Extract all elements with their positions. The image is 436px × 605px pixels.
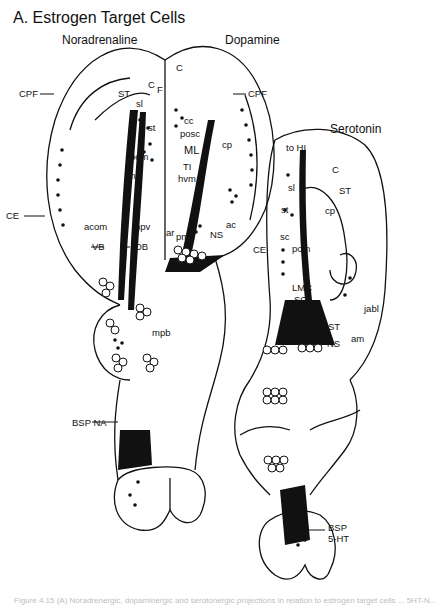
label-5ht-so: SO bbox=[294, 295, 308, 305]
label-na-ce: CE bbox=[6, 211, 19, 221]
label-da-hvm: hvm bbox=[178, 174, 196, 184]
label-5ht-5ht: 5-HT bbox=[328, 534, 349, 544]
label-na-hpv: hpv bbox=[135, 222, 150, 232]
label-5ht-bsp: BSP bbox=[328, 523, 347, 533]
header-serotonin: Serotonin bbox=[330, 122, 381, 136]
label-na-st: ST bbox=[118, 89, 130, 99]
label-da-posc: posc bbox=[180, 129, 200, 139]
label-5ht-am: am bbox=[351, 334, 364, 344]
label-na-mpb: mpb bbox=[152, 328, 170, 338]
figure-caption: Figure 4.15 (A) Noradrenergic, dopaminer… bbox=[14, 596, 436, 605]
label-5ht-cp: cp bbox=[325, 206, 335, 216]
label-5ht-pom: pom bbox=[292, 244, 310, 254]
label-na-st-small: st bbox=[148, 123, 155, 133]
label-na-pom: pom bbox=[130, 152, 148, 162]
label-5ht-to-hi: to HI bbox=[286, 143, 306, 153]
label-da-cc: cc bbox=[184, 116, 194, 126]
label-na-c: C bbox=[148, 80, 155, 90]
label-5ht-lmc: LMC bbox=[292, 283, 312, 293]
header-noradrenaline: Noradrenaline bbox=[62, 33, 137, 47]
label-5ht-jabl: jabl bbox=[364, 304, 379, 314]
label-na-f: F bbox=[157, 85, 163, 95]
serotonin-bundle bbox=[299, 150, 312, 300]
label-da-ti: TI bbox=[183, 162, 191, 172]
label-bsp-na: BSP NA bbox=[72, 418, 107, 428]
label-5ht-st-small: st bbox=[281, 205, 288, 215]
label-5ht-st2: ST bbox=[328, 322, 340, 332]
label-da-c: C bbox=[176, 63, 183, 73]
label-na-vb: VB bbox=[92, 242, 105, 252]
label-na-fm: fm bbox=[125, 171, 136, 181]
label-da-ar: ar bbox=[166, 228, 174, 238]
label-da-ml: ML bbox=[184, 145, 199, 155]
label-da-ns: NS bbox=[210, 230, 223, 240]
header-dopamine: Dopamine bbox=[225, 33, 280, 47]
label-na-db: DB bbox=[135, 242, 148, 252]
label-5ht-ns: NS bbox=[327, 339, 340, 349]
label-da-ce: CE bbox=[253, 245, 266, 255]
label-5ht-fr: FR bbox=[288, 322, 301, 332]
label-da-cpf: CPF bbox=[248, 89, 267, 99]
label-na-sl: sl bbox=[136, 99, 143, 109]
label-da-pm: pm bbox=[176, 232, 189, 242]
label-da-ac: ac bbox=[226, 220, 236, 230]
label-5ht-c: C bbox=[332, 165, 339, 175]
label-5ht-sc: sc bbox=[280, 232, 290, 242]
label-na-cpf: CPF bbox=[19, 89, 38, 99]
label-5ht-st: ST bbox=[339, 186, 351, 196]
label-da-cp: cp bbox=[222, 140, 232, 150]
label-na-acom: acom bbox=[84, 222, 107, 232]
label-5ht-sl: sl bbox=[288, 183, 295, 193]
